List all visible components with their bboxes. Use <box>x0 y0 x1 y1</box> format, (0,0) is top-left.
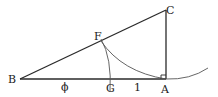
label-F: F <box>94 30 102 43</box>
label-phi: ϕ <box>61 81 69 94</box>
golden-ratio-diagram: B C F G A ϕ 1 <box>0 0 218 97</box>
label-G: G <box>106 82 115 95</box>
arc-centered-C <box>101 41 208 79</box>
label-one: 1 <box>134 81 141 94</box>
segment-BC <box>20 10 166 79</box>
label-B: B <box>8 73 16 86</box>
label-C: C <box>166 4 174 17</box>
label-A: A <box>160 83 170 96</box>
